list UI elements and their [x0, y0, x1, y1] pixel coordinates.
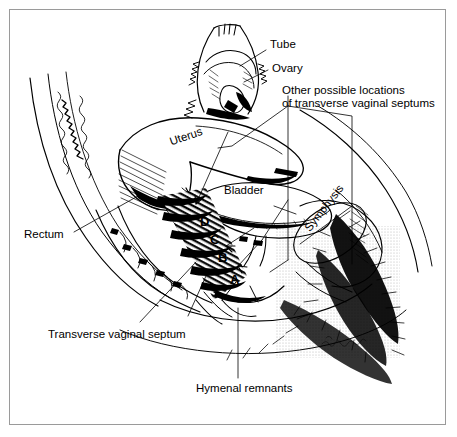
label-bladder: Bladder — [224, 184, 264, 197]
label-ovary: Ovary — [272, 62, 303, 75]
label-other-locations-line1: Other possible locations — [282, 84, 405, 97]
label-other-locations-line2: of transverse vaginal septums — [282, 97, 435, 110]
label-rectum: Rectum — [24, 228, 64, 241]
leader-B-arrow — [226, 228, 254, 246]
marker-A: A — [230, 272, 239, 287]
adnexa-hatching — [209, 70, 252, 99]
label-transverse-vaginal-septum: Transverse vaginal septum — [48, 328, 186, 341]
leader-transverse-septum-2 — [188, 276, 206, 316]
leader-symphysis — [274, 206, 296, 214]
leader-A-arrow — [238, 240, 262, 266]
figure-canvas: Tube Ovary Other possible locations of t… — [0, 0, 457, 437]
adnexa-shading — [206, 92, 252, 120]
adnexa-broad-ligament — [184, 24, 267, 118]
marker-C: C — [210, 232, 219, 247]
marker-D: D — [200, 214, 209, 229]
marker-B: B — [218, 250, 227, 265]
label-tube: Tube — [270, 38, 296, 51]
leader-transverse-septum — [140, 262, 196, 322]
anatomy-illustration — [0, 0, 457, 437]
label-hymenal-remnants: Hymenal remnants — [196, 382, 293, 395]
